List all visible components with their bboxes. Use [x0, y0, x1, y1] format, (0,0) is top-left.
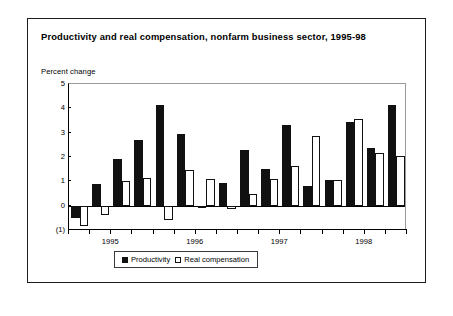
y-tick-mark: [68, 205, 71, 206]
bar-real-compensation: [164, 206, 172, 221]
x-tick-mark: [343, 229, 344, 234]
x-year-label: 1997: [271, 237, 288, 246]
bar-real-compensation: [312, 136, 320, 205]
x-tick-mark: [406, 229, 407, 234]
bar-real-compensation: [143, 178, 151, 206]
x-tick-mark: [174, 229, 175, 234]
bar-productivity: [325, 180, 333, 206]
bar-real-compensation: [291, 166, 299, 206]
y-tick-mark: [68, 132, 71, 133]
filled-square-icon: [122, 257, 128, 263]
x-year-label: 1998: [355, 237, 372, 246]
bar-real-compensation: [122, 181, 130, 205]
bar-productivity: [71, 206, 79, 218]
bar-productivity: [198, 206, 206, 208]
legend-item-productivity: Productivity: [122, 255, 170, 264]
y-axis-tick-labels: (1)012345: [46, 83, 65, 229]
bar-real-compensation: [185, 170, 193, 205]
legend-label-real-compensation: Real compensation: [184, 255, 249, 264]
bar-productivity: [261, 169, 269, 206]
x-tick-mark: [385, 229, 386, 234]
bar-real-compensation: [206, 179, 214, 206]
bar-real-compensation: [270, 179, 278, 206]
x-tick-mark: [237, 229, 238, 234]
y-axis-caption: Percent change: [41, 67, 96, 76]
bar-productivity: [367, 148, 375, 205]
y-tick-mark: [68, 107, 71, 108]
bar-productivity: [303, 186, 311, 205]
bar-real-compensation: [396, 156, 404, 206]
bar-real-compensation: [375, 153, 383, 205]
plot-area: [68, 83, 406, 229]
bar-real-compensation: [249, 194, 257, 206]
bar-productivity: [177, 134, 185, 206]
bar-productivity: [388, 105, 396, 206]
chart-legend: Productivity Real compensation: [114, 251, 258, 268]
bar-real-compensation: [80, 206, 88, 227]
y-tick-label: (1): [56, 225, 65, 234]
x-tick-mark: [89, 229, 90, 234]
x-tick-mark: [279, 229, 280, 234]
bars-container: [69, 84, 405, 229]
bar-productivity: [282, 125, 290, 205]
zero-baseline: [69, 206, 405, 207]
bar-productivity: [346, 122, 354, 206]
bar-productivity: [240, 150, 248, 206]
bar-productivity: [92, 184, 100, 206]
y-tick-label: 1: [61, 176, 65, 185]
x-year-label: 1995: [102, 237, 119, 246]
bar-productivity: [156, 105, 164, 206]
y-tick-label: 2: [61, 152, 65, 161]
x-year-label: 1996: [186, 237, 203, 246]
bar-real-compensation: [227, 206, 235, 210]
chart-title: Productivity and real compensation, nonf…: [41, 30, 411, 44]
x-tick-mark: [322, 229, 323, 234]
open-square-icon: [175, 257, 181, 263]
bar-productivity: [219, 183, 227, 206]
legend-item-real-compensation: Real compensation: [175, 255, 249, 264]
bar-real-compensation: [354, 119, 362, 205]
legend-label-productivity: Productivity: [131, 255, 170, 264]
y-tick-mark: [68, 156, 71, 157]
bar-real-compensation: [101, 206, 109, 216]
bar-productivity: [113, 159, 121, 205]
x-tick-mark: [131, 229, 132, 234]
x-tick-mark: [110, 229, 111, 234]
y-tick-label: 5: [61, 79, 65, 88]
bar-productivity: [134, 140, 142, 206]
x-tick-mark: [195, 229, 196, 234]
x-tick-mark: [364, 229, 365, 234]
y-tick-label: 3: [61, 127, 65, 136]
chart-figure: Productivity and real compensation, nonf…: [27, 18, 426, 283]
y-tick-mark: [68, 180, 71, 181]
x-tick-mark: [258, 229, 259, 234]
y-tick-mark: [68, 229, 71, 230]
x-tick-mark: [153, 229, 154, 234]
y-tick-label: 4: [61, 103, 65, 112]
y-tick-label: 0: [61, 200, 65, 209]
bar-real-compensation: [333, 180, 341, 206]
x-tick-mark: [216, 229, 217, 234]
x-tick-mark: [300, 229, 301, 234]
